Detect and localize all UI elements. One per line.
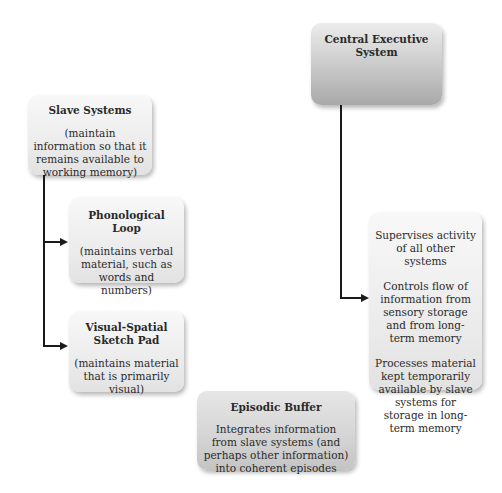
ces-function-control-flow: Controls flow of information from sensor…: [375, 280, 476, 345]
episodic-buffer-description: Integrates information from slave system…: [202, 423, 350, 475]
connector-slave-vertical: [43, 175, 45, 346]
connector-visual-spatial: [43, 345, 61, 347]
episodic-buffer-title: Episodic Buffer: [202, 401, 350, 414]
arrow-to-visual-spatial: [60, 342, 68, 350]
visual-spatial-description: (maintains material that is primarily vi…: [74, 357, 179, 396]
connector-phonological: [43, 241, 61, 243]
phonological-loop-title: Phonological Loop: [74, 209, 179, 235]
connector-ces-horizontal: [340, 297, 362, 299]
slave-systems-description: (maintain information so that it remains…: [33, 127, 147, 179]
arrow-to-phonological: [60, 238, 68, 246]
visual-spatial-title: Visual-Spatial Sketch Pad: [74, 321, 179, 347]
phonological-loop-box: Phonological Loop (maintains verbal mate…: [69, 197, 184, 283]
slave-systems-box: Slave Systems (maintain information so t…: [28, 95, 152, 175]
visual-spatial-box: Visual-Spatial Sketch Pad (maintains mat…: [69, 311, 184, 392]
connector-ces-vertical: [340, 105, 342, 298]
slave-systems-title: Slave Systems: [33, 104, 147, 117]
ces-function-supervise: Supervises activity of all other systems: [375, 229, 476, 268]
arrow-to-ces-functions: [361, 294, 369, 302]
phonological-loop-description: (maintains verbal material, such as word…: [74, 245, 179, 297]
central-executive-box: Central Executive System: [311, 23, 442, 105]
central-executive-functions-box: Supervises activity of all other systems…: [369, 212, 482, 390]
ces-function-process: Processes material kept temporarily avai…: [375, 357, 476, 435]
episodic-buffer-box: Episodic Buffer Integrates information f…: [197, 391, 355, 470]
central-executive-title: Central Executive System: [311, 33, 442, 59]
